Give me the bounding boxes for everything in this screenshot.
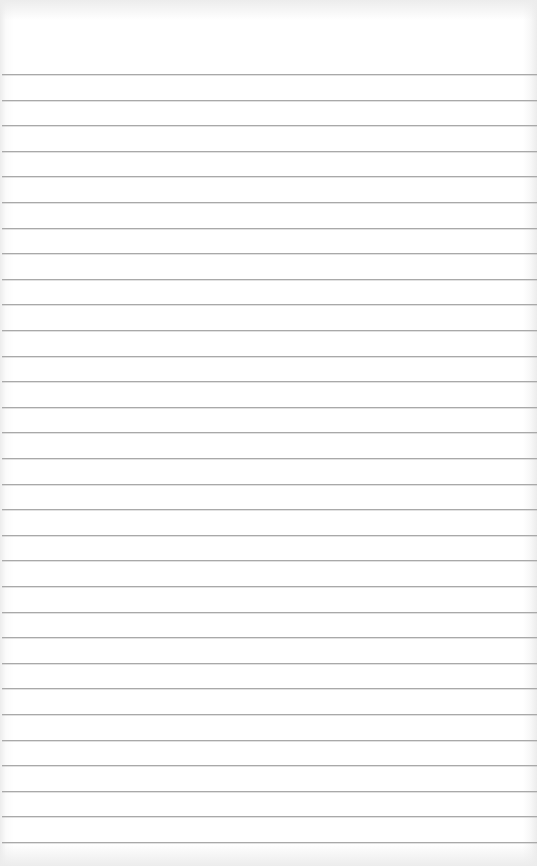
ruled-line: [2, 791, 537, 792]
ruled-line: [2, 125, 537, 126]
ruled-line: [2, 663, 537, 664]
ruled-line: [2, 740, 537, 741]
ruled-line: [2, 432, 537, 433]
ruled-line: [2, 100, 537, 101]
ruled-line: [2, 535, 537, 536]
ruled-line: [2, 714, 537, 715]
ruled-line: [2, 202, 537, 203]
ruled-line: [2, 330, 537, 331]
ruled-line: [2, 356, 537, 357]
ruled-line: [2, 612, 537, 613]
ruled-line: [2, 407, 537, 408]
ruled-line: [2, 381, 537, 382]
ruled-line: [2, 816, 537, 817]
ruled-line: [2, 688, 537, 689]
ruled-line: [2, 586, 537, 587]
ruled-line: [2, 74, 537, 75]
ruled-line: [2, 765, 537, 766]
ruled-line: [2, 458, 537, 459]
ruled-line: [2, 304, 537, 305]
ruled-line: [2, 509, 537, 510]
ruled-line: [2, 253, 537, 254]
ruled-line: [2, 560, 537, 561]
lined-paper-page: [0, 0, 537, 866]
ruled-line: [2, 176, 537, 177]
ruled-line: [2, 842, 537, 843]
ruled-line: [2, 484, 537, 485]
ruled-line: [2, 151, 537, 152]
ruled-line: [2, 228, 537, 229]
ruled-line: [2, 279, 537, 280]
ruled-line: [2, 637, 537, 638]
